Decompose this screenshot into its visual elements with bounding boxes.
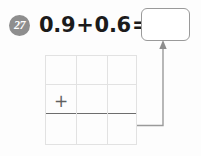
place-value-grid[interactable]: + [45, 55, 137, 145]
grid-line-row1 [45, 84, 137, 85]
grid-line-col1 [76, 55, 77, 145]
connector-path [137, 47, 163, 126]
plus-operator: + [75, 13, 94, 37]
grid-line-top [45, 55, 137, 56]
grid-line-bottom [45, 144, 137, 145]
equation: 0.9 + 0.6 = [39, 11, 150, 39]
answer-value [142, 9, 189, 40]
grid-line-left [45, 55, 46, 145]
problem-number-badge: 27 [9, 15, 30, 36]
worksheet-problem: 27 0.9 + 0.6 = + [0, 0, 201, 156]
grid-plus-sign: + [53, 93, 69, 109]
grid-line-right [136, 55, 137, 145]
answer-input-box[interactable] [141, 8, 190, 41]
first-addend: 0.9 [39, 13, 75, 37]
grid-line-col2 [107, 55, 108, 145]
grid-sum-line [45, 113, 137, 114]
arrowhead-icon [159, 40, 166, 49]
second-addend: 0.6 [95, 13, 131, 37]
